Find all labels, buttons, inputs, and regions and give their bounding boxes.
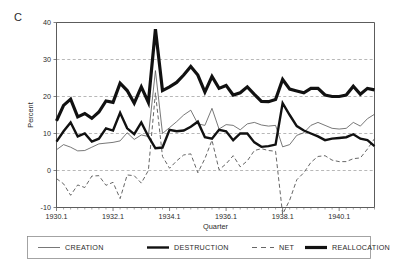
x-tick-label: 1940.1: [328, 212, 350, 221]
chart-legend: CREATIONDESTRUCTIONNETREALLOCATION: [28, 237, 390, 259]
y-axis-ticks: -10010203040: [41, 18, 57, 212]
y-axis-title: Percent: [26, 102, 35, 127]
y-tick-label: 40: [43, 18, 51, 27]
series-line-reallocation: [57, 29, 375, 121]
y-tick-label: 20: [43, 92, 51, 101]
series-lines: [57, 29, 375, 214]
x-tick-label: 1930.1: [46, 212, 68, 221]
x-axis-ticks: 1930.11932.11934.11936.11938.11940.1: [46, 208, 375, 221]
y-tick-label: 0: [47, 166, 51, 175]
figure-container: C -10010203040 1930.11932.11934.11936.11…: [0, 0, 398, 270]
x-tick-label: 1934.1: [159, 212, 181, 221]
series-line-net: [57, 93, 375, 214]
legend-label-net: NET: [279, 243, 294, 252]
gridlines: [57, 60, 375, 171]
x-tick-label: 1936.1: [215, 212, 237, 221]
time-series-chart: -10010203040 1930.11932.11934.11936.1193…: [0, 0, 398, 270]
y-tick-label: 30: [43, 55, 51, 64]
legend-label-reallocation: REALLOCATION: [332, 243, 390, 252]
legend-label-destruction: DESTRUCTION: [174, 243, 229, 252]
plot-border: [57, 23, 375, 208]
y-tick-label: 10: [43, 129, 51, 138]
x-tick-label: 1932.1: [102, 212, 124, 221]
plot-frame: [57, 23, 375, 208]
x-axis-title: Quarter: [203, 222, 229, 231]
legend-label-creation: CREATION: [65, 243, 104, 252]
